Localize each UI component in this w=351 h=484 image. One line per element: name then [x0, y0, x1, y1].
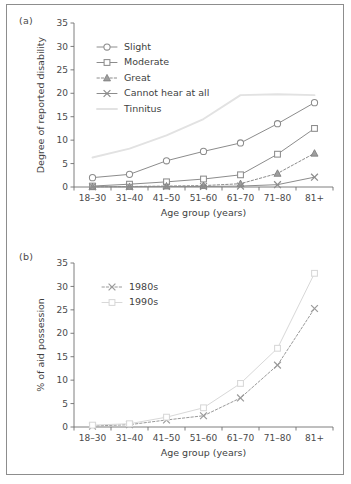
legend-label-3: Cannot hear at all: [124, 87, 209, 98]
datapoint-moderate-6: [312, 126, 318, 132]
datapoint-slight-6: [311, 100, 317, 106]
x-tick-label: 18–30: [79, 433, 107, 443]
datapoint-slight-2: [163, 158, 169, 164]
x-axis-title: Age group (years): [161, 207, 247, 218]
x-axis-title: Age group (years): [161, 447, 247, 458]
x-tick-label: 71–80: [264, 433, 292, 443]
datapoint-great-6: [311, 150, 318, 157]
y-tick-label: 15: [57, 352, 68, 362]
y-tick-label: 15: [57, 112, 68, 122]
y-tick-label: 25: [57, 65, 68, 75]
datapoint-moderate-4: [238, 172, 244, 178]
y-tick-label: 20: [57, 328, 69, 338]
datapoint-moderate-5: [275, 151, 281, 157]
datapoint-slight-4: [237, 140, 243, 146]
series-line-slight: [93, 103, 315, 178]
legend-label-0: Slight: [124, 41, 151, 52]
y-tick-label: 0: [62, 422, 68, 432]
chart-panel-b: (b) 0510152025303518–3031–4041–5051–6061…: [7, 241, 345, 475]
datapoint-slight-5: [274, 121, 280, 127]
y-tick-label: 30: [57, 42, 69, 52]
legend-marker-1: [104, 60, 110, 66]
datapoint-1990s-1: [127, 421, 133, 427]
y-tick-label: 5: [62, 399, 68, 409]
legend-label-0: 1980s: [129, 281, 158, 292]
legend-label-4: Tinnitus: [123, 103, 162, 114]
chart-a-plot: 0510152025303518–3031–4041–5051–6061–707…: [7, 5, 345, 241]
y-axis-title: % of aid possession: [35, 298, 46, 392]
legend-marker-2: [104, 74, 111, 81]
x-tick-label: 18–30: [79, 193, 107, 203]
legend-label-1: Moderate: [124, 56, 169, 67]
figure-frame: (a) 0510152025303518–3031–4041–5051–6061…: [6, 4, 344, 475]
y-tick-label: 30: [57, 282, 69, 292]
y-tick-label: 10: [57, 375, 69, 385]
y-tick-label: 35: [57, 18, 68, 28]
datapoint-1990s-6: [312, 270, 318, 276]
x-tick-label: 31–40: [116, 193, 144, 203]
datapoint-slight-0: [89, 175, 95, 181]
series-line-1990s: [93, 273, 315, 425]
datapoint-moderate-3: [201, 176, 207, 182]
datapoint-1990s-0: [90, 422, 96, 428]
x-tick-label: 81+: [305, 433, 324, 443]
legend-marker-0: [104, 44, 110, 50]
datapoint-1990s-5: [275, 345, 281, 351]
x-tick-label: 51–60: [190, 193, 218, 203]
y-tick-label: 5: [62, 159, 68, 169]
chart-panel-a: (a) 0510152025303518–3031–4041–5051–6061…: [7, 5, 345, 241]
x-tick-label: 71–80: [264, 193, 292, 203]
y-tick-label: 25: [57, 305, 68, 315]
y-tick-label: 10: [57, 135, 69, 145]
datapoint-slight-3: [200, 148, 206, 154]
datapoint-1990s-4: [238, 381, 244, 387]
chart-b-plot: 0510152025303518–3031–4041–5051–6061–707…: [7, 241, 345, 475]
y-axis-title: Degree of reported disability: [35, 36, 46, 173]
legend-label-1: 1990s: [129, 296, 158, 307]
x-tick-label: 61–70: [227, 433, 255, 443]
x-tick-label: 31–40: [116, 433, 144, 443]
datapoint-1990s-3: [201, 405, 207, 411]
x-tick-label: 41–50: [153, 433, 181, 443]
datapoint-slight-1: [126, 171, 132, 177]
x-tick-label: 51–60: [190, 433, 218, 443]
legend-label-2: Great: [124, 72, 151, 83]
x-tick-label: 61–70: [227, 193, 255, 203]
y-tick-label: 35: [57, 258, 68, 268]
datapoint-great-5: [274, 170, 281, 177]
x-tick-label: 81+: [305, 193, 324, 203]
y-tick-label: 20: [57, 88, 69, 98]
y-tick-label: 0: [62, 182, 68, 192]
legend-marker-1: [109, 300, 115, 306]
datapoint-1990s-2: [164, 414, 170, 420]
x-tick-label: 41–50: [153, 193, 181, 203]
